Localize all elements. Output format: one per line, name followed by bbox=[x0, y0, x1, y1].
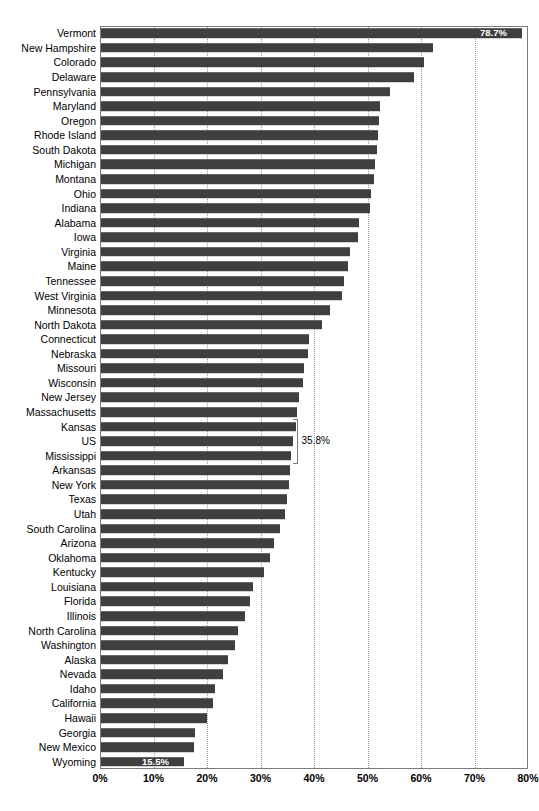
bar-row: Arizona bbox=[0, 536, 538, 551]
category-label: Texas bbox=[69, 494, 96, 505]
category-label: Virginia bbox=[61, 246, 96, 257]
bar bbox=[101, 466, 290, 476]
bar-row: Nevada bbox=[0, 667, 538, 682]
bar bbox=[101, 116, 379, 126]
bar-row: Alaska bbox=[0, 652, 538, 667]
category-label: Michigan bbox=[54, 159, 96, 170]
bar bbox=[101, 509, 285, 519]
x-tick-label: 10% bbox=[143, 772, 164, 784]
bar bbox=[101, 626, 238, 636]
category-label: New Hampshire bbox=[21, 42, 96, 53]
bar-row: South Carolina bbox=[0, 521, 538, 536]
bar bbox=[101, 670, 223, 680]
category-label: Nebraska bbox=[51, 348, 96, 359]
bar-row: Minnesota bbox=[0, 303, 538, 318]
bar-row: Texas bbox=[0, 492, 538, 507]
bar-row: Idaho bbox=[0, 682, 538, 697]
bar bbox=[101, 247, 350, 257]
x-axis: 0%10%20%30%40%50%60%70%80% bbox=[100, 772, 528, 792]
bar-row: US bbox=[0, 434, 538, 449]
bar bbox=[101, 291, 342, 301]
category-label: Vermont bbox=[57, 28, 96, 39]
category-label: Ohio bbox=[74, 188, 96, 199]
category-label: Florida bbox=[64, 596, 96, 607]
bar bbox=[101, 378, 303, 388]
bar bbox=[101, 43, 433, 53]
bar bbox=[101, 276, 344, 286]
bar bbox=[101, 538, 274, 548]
category-label: Delaware bbox=[52, 71, 96, 82]
bar-row: Iowa bbox=[0, 230, 538, 245]
bar-row: New Mexico bbox=[0, 740, 538, 755]
bar-row: Kentucky bbox=[0, 565, 538, 580]
x-tick-label: 40% bbox=[303, 772, 324, 784]
bar bbox=[101, 422, 296, 432]
bar-row: Montana bbox=[0, 172, 538, 187]
bar bbox=[101, 101, 380, 111]
bar-row: Florida bbox=[0, 594, 538, 609]
x-tick-label: 60% bbox=[410, 772, 431, 784]
category-label: New Mexico bbox=[39, 742, 96, 753]
bar bbox=[101, 451, 291, 461]
bar bbox=[101, 160, 375, 170]
category-label: Maryland bbox=[53, 101, 96, 112]
category-label: Nevada bbox=[60, 669, 96, 680]
bar bbox=[101, 553, 270, 563]
category-label: Connecticut bbox=[41, 334, 96, 345]
bar-row: Utah bbox=[0, 507, 538, 522]
bar-value-label: 15.5% bbox=[142, 757, 172, 767]
category-label: Minnesota bbox=[48, 305, 96, 316]
bar bbox=[101, 611, 245, 621]
bar-row: Vermont78.7% bbox=[0, 26, 538, 41]
bar bbox=[101, 655, 228, 665]
us-value-callout: 35.8% bbox=[302, 435, 330, 446]
category-label: Washington bbox=[41, 640, 96, 651]
category-label: Arizona bbox=[60, 538, 96, 549]
bar-row: Washington bbox=[0, 638, 538, 653]
bar-row: Connecticut bbox=[0, 332, 538, 347]
category-label: Alaska bbox=[64, 654, 96, 665]
category-label: Louisiana bbox=[51, 581, 96, 592]
bar-row: Wisconsin bbox=[0, 376, 538, 391]
bar-row: Alabama bbox=[0, 215, 538, 230]
bar-row: Ohio bbox=[0, 186, 538, 201]
bar bbox=[101, 713, 207, 723]
bar bbox=[101, 364, 304, 374]
bar bbox=[101, 145, 377, 155]
category-label: New York bbox=[52, 479, 96, 490]
category-label: Mississippi bbox=[45, 450, 96, 461]
bar-row: Kansas bbox=[0, 419, 538, 434]
x-tick-label: 30% bbox=[250, 772, 271, 784]
category-label: Rhode Island bbox=[34, 130, 96, 141]
category-label: Oregon bbox=[61, 115, 96, 126]
bar bbox=[101, 480, 289, 490]
bar-row: Hawaii bbox=[0, 711, 538, 726]
bar-row: Virginia bbox=[0, 245, 538, 260]
category-label: Indiana bbox=[62, 203, 96, 214]
bar-row: Maine bbox=[0, 259, 538, 274]
bar bbox=[101, 203, 370, 213]
bar-row: Oregon bbox=[0, 113, 538, 128]
x-tick-label: 70% bbox=[464, 772, 485, 784]
bar-rows: Vermont78.7%New HampshireColoradoDelawar… bbox=[0, 26, 538, 769]
bar bbox=[101, 349, 308, 359]
bar-row: Georgia bbox=[0, 725, 538, 740]
category-label: Maine bbox=[67, 261, 96, 272]
x-tick-label: 20% bbox=[196, 772, 217, 784]
bar-row: North Dakota bbox=[0, 317, 538, 332]
bar bbox=[101, 568, 264, 578]
category-label: Missouri bbox=[57, 363, 96, 374]
category-label: Massachusetts bbox=[26, 407, 96, 418]
x-tick-label: 80% bbox=[517, 772, 538, 784]
bar-row: New Hampshire bbox=[0, 41, 538, 56]
bar-row: West Virginia bbox=[0, 288, 538, 303]
bar bbox=[101, 684, 215, 694]
bar-row: Massachusetts bbox=[0, 405, 538, 420]
bar-row: Missouri bbox=[0, 361, 538, 376]
bar bbox=[101, 742, 194, 752]
category-label: Iowa bbox=[74, 232, 96, 243]
category-label: Illinois bbox=[67, 611, 96, 622]
bar-row: North Carolina bbox=[0, 623, 538, 638]
category-label: California bbox=[52, 698, 96, 709]
